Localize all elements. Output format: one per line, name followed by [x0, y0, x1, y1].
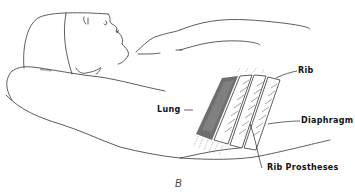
diaphragm-leader — [268, 121, 300, 124]
neck — [118, 56, 128, 64]
head-cap — [24, 13, 108, 68]
face-profile — [108, 14, 129, 56]
cap-band — [64, 13, 72, 74]
chest-cross-section — [184, 68, 300, 168]
label-rib: Rib — [298, 66, 314, 75]
label-diaphragm: Diaphragm — [301, 116, 353, 125]
figure-caption: B — [175, 178, 182, 189]
label-lung: Lung — [157, 105, 180, 114]
arm-lower — [180, 41, 260, 50]
label-rib-prostheses: Rib Prostheses — [267, 163, 339, 172]
arm-upper — [180, 19, 310, 30]
pillow — [12, 67, 165, 91]
rib-leader — [276, 71, 297, 78]
